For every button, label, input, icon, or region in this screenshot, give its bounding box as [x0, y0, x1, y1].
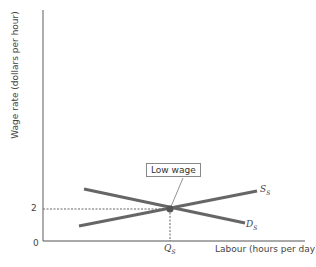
- demand-curve: [84, 189, 245, 223]
- callout-pointer: [170, 178, 183, 209]
- y-axis-label: Wage rate (dollars per hour): [10, 10, 20, 140]
- origin-label: 0: [33, 238, 39, 248]
- low-wage-callout: Low wage: [146, 163, 201, 177]
- x-tick-qs: QS: [164, 243, 176, 255]
- y-tick-2: 2: [31, 203, 37, 213]
- x-axis-label: Labour (hours per day): [215, 244, 316, 254]
- equilibrium-point: [167, 206, 174, 213]
- supply-label: SS: [260, 184, 270, 196]
- chart-canvas: [0, 0, 316, 267]
- demand-label: DS: [246, 219, 257, 231]
